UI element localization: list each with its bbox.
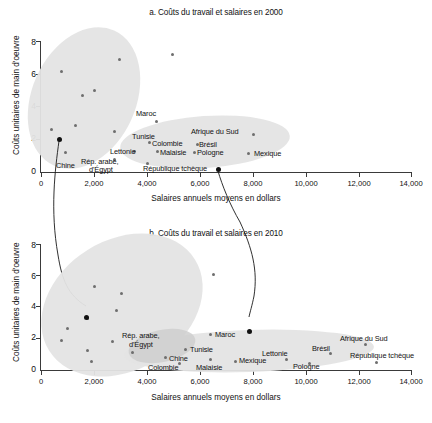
label-maroc: Maroc	[215, 330, 235, 339]
panel-b-ytick-6: 6	[22, 271, 36, 281]
panel-a-xtick-4000: 4,000	[127, 179, 167, 188]
data-point	[93, 285, 96, 288]
label-malaisie: Malaisie	[196, 363, 222, 372]
label-egypte-line2: d'Égypt	[129, 340, 153, 349]
panel-b-xtick-6000: 6,000	[180, 377, 220, 386]
panel-a-ytick-8: 8	[22, 37, 36, 47]
data-point	[66, 327, 69, 330]
panel-b-ytickmark-8	[36, 244, 40, 245]
label-malaisie: Malaisie	[160, 148, 186, 157]
data-point	[50, 128, 53, 131]
data-point-egypte	[131, 351, 134, 354]
label-tunisie: Tunisie	[190, 345, 213, 354]
label-republique-tcheque: République tchèque	[350, 351, 414, 360]
panel-a-xtickmark-14000	[411, 172, 412, 177]
label-pologne: Pologne	[293, 362, 319, 371]
data-point-maroc	[209, 333, 212, 336]
panel-a-xtick-6000: 6,000	[180, 179, 220, 188]
panel-a-xtick-8000: 8,000	[233, 179, 273, 188]
data-point	[64, 151, 67, 154]
data-point	[60, 339, 63, 342]
data-point-pologne	[193, 151, 196, 154]
panel-a-xtick-12000: 12,000	[339, 179, 379, 188]
label-colombie: Colombie	[152, 139, 182, 148]
label-chine: Chine	[169, 354, 188, 363]
label-pologne: Pologne	[197, 148, 223, 157]
data-point	[111, 340, 114, 343]
data-point-colombie	[148, 141, 151, 144]
data-point-lettonie	[285, 358, 288, 361]
data-point	[171, 53, 174, 56]
panel-b-y-axis	[40, 244, 41, 371]
chart-panel-2000: a. Coûts du travail et salaires en 2000 …	[0, 0, 432, 212]
panel-b-xtick-2000: 2,000	[74, 377, 114, 386]
panel-b-xtick-12000: 12,000	[339, 377, 379, 386]
data-point	[93, 89, 96, 92]
data-point	[212, 273, 215, 276]
panel-a-xtick-2000: 2,000	[74, 179, 114, 188]
data-point-malaisie	[156, 150, 159, 153]
panel-b-title: b. Coûts du travail et salaires en 2010	[0, 229, 432, 238]
panel-a-xtickmark-0	[41, 172, 42, 177]
data-point	[90, 360, 93, 363]
data-point-chine-highlight	[84, 315, 89, 320]
panel-b-ytick-4: 4	[22, 301, 36, 311]
panel-b-xtickmark-14000	[411, 370, 412, 375]
data-point	[118, 58, 121, 61]
data-point	[81, 94, 84, 97]
panel-a-xtick-0: 0	[21, 179, 61, 188]
panel-a-xtickmark-10000	[306, 172, 307, 177]
label-mexique: Mexique	[239, 356, 266, 365]
chart-panel-2010: b. Coûts du travail et salaires en 2010 …	[0, 212, 432, 423]
data-point-republique-tcheque-highlight	[216, 167, 221, 172]
data-point	[120, 292, 123, 295]
data-point-chine-highlight	[57, 137, 62, 142]
data-point-afrique-du-sud	[252, 133, 255, 136]
data-point	[115, 309, 118, 312]
panel-b-x-axis-label: Salaires annuels moyens en dollars	[0, 393, 432, 402]
panel-b-xtick-4000: 4,000	[127, 377, 167, 386]
panel-a-y-axis-label: Coûts unitaires de main d'oeuvre	[12, 36, 21, 155]
label-lettonie: Lettonie	[110, 147, 136, 156]
panel-a-x-axis-label: Salaires annuels moyens en dollars	[0, 194, 432, 203]
panel-b-ytickmark-4	[36, 306, 40, 307]
panel-b-ytick-2: 2	[22, 332, 36, 342]
panel-a-ytick-0: 0	[22, 166, 36, 176]
data-point-malaisie	[209, 358, 212, 361]
label-afrique-du-sud: Afrique du Sud	[191, 127, 239, 136]
label-colombie: Colombie	[148, 363, 178, 372]
panel-b-xtickmark-12000	[359, 370, 360, 375]
panel-a-xtickmark-8000	[253, 172, 254, 177]
label-mexique: Mexique	[254, 149, 281, 158]
panel-b-ytickmark-2	[36, 338, 40, 339]
panel-b-ytick-0: 0	[22, 364, 36, 374]
data-point	[113, 130, 116, 133]
panel-b-ytickmark-6	[36, 275, 40, 276]
panel-a-xtick-10000: 10,000	[286, 179, 326, 188]
panel-b-xtick-8000: 8,000	[233, 377, 273, 386]
data-point-chine	[164, 356, 167, 359]
panel-b-y-axis-label: Coûts unitaires de main d'oeuvre	[12, 243, 21, 362]
data-point	[86, 349, 89, 352]
panel-b-xtick-10000: 10,000	[286, 377, 326, 386]
data-point	[74, 124, 77, 127]
data-point-maroc	[155, 120, 158, 123]
panel-b-xtick-14000: 14,000	[391, 377, 431, 386]
label-egypte-line2: d'Égypt	[89, 165, 113, 174]
data-point-republique-tcheque	[375, 361, 378, 364]
data-point-mexique	[247, 152, 250, 155]
label-maroc: Maroc	[136, 109, 156, 118]
data-point-tunisie	[184, 348, 187, 351]
panel-a-ytickmark-8	[36, 41, 40, 42]
panel-a-title: a. Coûts du travail et salaires en 2000	[0, 8, 432, 17]
panel-a-xtickmark-12000	[359, 172, 360, 177]
panel-a-xtick-14000: 14,000	[391, 179, 431, 188]
label-egypte-line1: Rép. arabe,	[122, 331, 160, 340]
panel-a-ytick-6: 6	[22, 69, 36, 79]
label-afrique-du-sud: Afrique du Sud	[340, 334, 388, 343]
data-point-mexique	[234, 360, 237, 363]
data-point-republique-tcheque-highlight	[247, 329, 252, 334]
label-chine: Chine	[56, 161, 75, 170]
panel-b-xtick-0: 0	[21, 377, 61, 386]
label-bresil: Brésil	[312, 344, 330, 353]
